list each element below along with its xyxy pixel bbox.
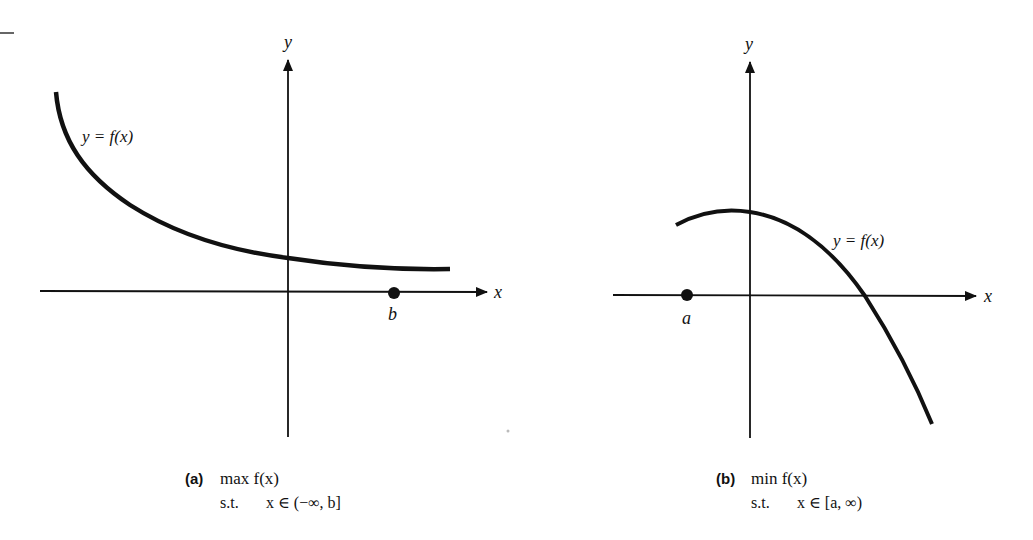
panel-a-y-label: y bbox=[282, 32, 292, 52]
panel-a-curve bbox=[56, 92, 450, 269]
panel-b-curve-label: y = f(x) bbox=[831, 231, 884, 250]
panel-b-caption-line1: min f(x) bbox=[751, 469, 807, 488]
panel-a-caption-line2: x ∈ (−∞, b] bbox=[266, 494, 341, 512]
panel-a-x-axis bbox=[40, 291, 487, 292]
panel-b-caption-line2: x ∈ [a, ∞) bbox=[797, 494, 862, 512]
panel-a-point-b bbox=[388, 287, 400, 299]
panel-a-caption-st: s.t. bbox=[220, 494, 239, 511]
panel-b-x-axis bbox=[613, 295, 976, 296]
panel-b-y-label: y bbox=[743, 34, 753, 54]
panel-b-curve bbox=[676, 211, 932, 424]
speck bbox=[507, 430, 510, 433]
panel-a-point-label: b bbox=[388, 304, 397, 324]
panel-b-caption-st: s.t. bbox=[751, 494, 770, 511]
panel-a: y x y = f(x) b (a) max f(x) s.t. x ∈ (−∞… bbox=[40, 32, 502, 512]
panel-b-caption-tag: (b) bbox=[716, 470, 735, 487]
panel-b-x-label: x bbox=[983, 286, 992, 306]
panel-a-caption-line1: max f(x) bbox=[220, 469, 279, 488]
panel-a-curve-label: y = f(x) bbox=[80, 127, 133, 146]
panel-b-point-a bbox=[681, 289, 693, 301]
figure-canvas: y x y = f(x) b (a) max f(x) s.t. x ∈ (−∞… bbox=[0, 0, 1033, 540]
panel-b: y x y = f(x) a (b) min f(x) s.t. x ∈ [a,… bbox=[613, 34, 992, 512]
panel-b-point-label: a bbox=[682, 308, 691, 328]
panel-a-caption-tag: (a) bbox=[185, 470, 203, 487]
panel-a-x-label: x bbox=[493, 282, 502, 302]
